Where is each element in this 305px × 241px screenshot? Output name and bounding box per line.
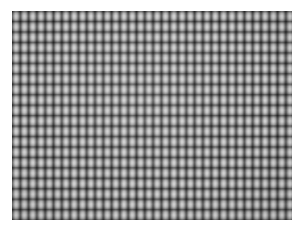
texture-vignette [12,11,292,220]
grid-weave-texture [12,11,292,220]
image-canvas [0,0,305,241]
